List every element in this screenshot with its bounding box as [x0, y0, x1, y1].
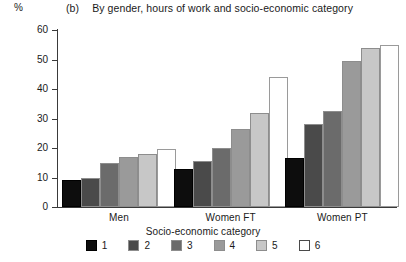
legend-label: 3 — [187, 240, 193, 251]
bar — [119, 157, 138, 207]
legend-item: 6 — [299, 240, 321, 251]
bar — [250, 113, 269, 207]
legend-swatch — [214, 240, 225, 251]
legend-label: 6 — [315, 240, 321, 251]
bar — [81, 178, 100, 208]
legend-label: 1 — [102, 240, 108, 251]
bar — [323, 111, 342, 207]
bar — [174, 169, 193, 207]
x-axis-group-label: Men — [62, 212, 176, 223]
bar — [342, 61, 361, 207]
legend-label: 2 — [144, 240, 150, 251]
bar — [193, 161, 212, 207]
legend-swatch — [86, 240, 97, 251]
bar-chart: % (b)By gender, hours of work and socio-… — [0, 0, 406, 262]
bar — [100, 163, 119, 207]
bar-group — [62, 30, 176, 207]
y-axis-tick: 0 — [52, 207, 58, 208]
chart-legend: 123456 — [0, 240, 406, 251]
bar — [361, 48, 380, 207]
x-axis-title: Socio-economic category — [0, 226, 406, 237]
x-axis-group-label: Women FT — [174, 212, 288, 223]
y-axis-tick-label: 20 — [37, 142, 48, 153]
y-axis-tick-label: 0 — [42, 201, 48, 212]
legend-swatch — [299, 240, 310, 251]
bar — [62, 180, 81, 207]
legend-item: 5 — [256, 240, 278, 251]
y-axis-unit-label: % — [14, 2, 23, 13]
bar — [212, 148, 231, 207]
chart-title-index: (b) — [66, 2, 79, 14]
y-axis-tick-label: 50 — [37, 54, 48, 65]
legend-swatch — [128, 240, 139, 251]
bar-group — [285, 30, 399, 207]
legend-swatch — [171, 240, 182, 251]
bar — [380, 45, 399, 207]
bar — [285, 158, 304, 207]
bar — [304, 124, 323, 207]
legend-item: 2 — [128, 240, 150, 251]
legend-label: 5 — [272, 240, 278, 251]
chart-title-text: By gender, hours of work and socio-econo… — [92, 2, 353, 14]
bar — [138, 154, 157, 207]
y-axis-tick-label: 10 — [37, 172, 48, 183]
x-axis-group-label: Women PT — [285, 212, 399, 223]
chart-title: (b)By gender, hours of work and socio-ec… — [66, 2, 353, 14]
legend-item: 4 — [214, 240, 236, 251]
plot-area — [58, 30, 396, 207]
x-axis-line — [57, 207, 397, 208]
legend-swatch — [256, 240, 267, 251]
y-axis-tick-label: 40 — [37, 83, 48, 94]
bar-group — [174, 30, 288, 207]
legend-item: 3 — [171, 240, 193, 251]
bar — [231, 129, 250, 207]
y-axis-tick-label: 60 — [37, 24, 48, 35]
legend-item: 1 — [86, 240, 108, 251]
legend-label: 4 — [230, 240, 236, 251]
y-axis-tick-label: 30 — [37, 113, 48, 124]
